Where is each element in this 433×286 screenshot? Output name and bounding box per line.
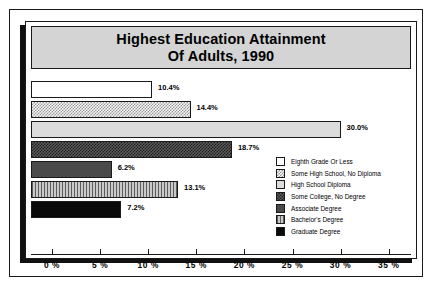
x-axis: [31, 254, 411, 259]
x-axis-tick: [148, 249, 149, 254]
x-axis-tick: [100, 249, 101, 254]
chart-title-band: Highest Education Attainment Of Adults, …: [31, 26, 411, 69]
x-axis-line: [31, 254, 411, 255]
legend-item-label: Bachelor's Degree: [291, 215, 343, 224]
legend-item[interactable]: Associate Degree: [276, 202, 411, 214]
bar-value-label: 18.7%: [238, 143, 259, 152]
x-axis-tick-label: 5 %: [92, 260, 108, 270]
legend-item-label: Some College, No Degree: [291, 192, 366, 201]
legend-item-label: Graduate Degree: [291, 227, 340, 236]
light-gray-square-icon: [276, 180, 285, 189]
legend-item-label: Some High School, No Diploma: [291, 169, 381, 178]
bar-high-school-diploma[interactable]: [31, 121, 341, 138]
x-axis-tick-label: 30 %: [330, 260, 352, 270]
x-axis-tick: [52, 249, 53, 254]
bar-value-label: 30.0%: [347, 123, 368, 132]
bar-value-label: 6.2%: [118, 163, 135, 172]
chart-card: Highest Education Attainment Of Adults, …: [25, 21, 417, 259]
x-axis-tick: [389, 249, 390, 254]
x-axis-tick: [293, 249, 294, 254]
dark-gray-square-icon: [276, 204, 285, 213]
bar-eighth-grade-or-less[interactable]: [31, 81, 152, 98]
x-axis-tick: [244, 249, 245, 254]
bar-some-high-school-no-diploma[interactable]: [31, 101, 191, 118]
chart-page: Highest Education Attainment Of Adults, …: [0, 0, 433, 286]
legend-item[interactable]: Graduate Degree: [276, 226, 411, 238]
x-axis-tick-label: 0 %: [44, 260, 60, 270]
legend-item[interactable]: Eighth Grade Or Less: [276, 156, 411, 168]
light-checker-square-icon: [276, 169, 285, 178]
legend-item-label: Eighth Grade Or Less: [291, 157, 353, 166]
x-axis-tick-label: 35 %: [378, 260, 400, 270]
chart-title-line-1: Highest Education Attainment: [116, 31, 325, 48]
plot-area: 10.4%14.4%30.0%18.7%6.2%13.1%7.2% Eighth…: [31, 74, 411, 254]
x-axis-tick-label: 25 %: [282, 260, 304, 270]
bar-some-college-no-degree[interactable]: [31, 141, 232, 158]
x-axis-tick-labels: 0 %5 %10 %15 %20 %25 %30 %35 %: [31, 260, 411, 274]
legend-item-label: Associate Degree: [291, 204, 341, 213]
x-axis-tick-label: 10 %: [137, 260, 159, 270]
black-square-icon: [276, 227, 285, 236]
legend-item[interactable]: Bachelor's Degree: [276, 214, 411, 226]
chart-legend: Eighth Grade Or LessSome High School, No…: [276, 156, 411, 237]
bar-row: 10.4%: [31, 80, 411, 100]
chart-title-line-2: Of Adults, 1990: [168, 48, 275, 65]
legend-item[interactable]: Some High School, No Diploma: [276, 168, 411, 180]
bar-value-label: 14.4%: [197, 103, 218, 112]
legend-item-label: High School Diploma: [291, 180, 351, 189]
legend-item[interactable]: Some College, No Degree: [276, 191, 411, 203]
dark-checker-square-icon: [276, 192, 285, 201]
bar-value-label: 13.1%: [184, 183, 205, 192]
striped-square-icon: [276, 215, 285, 224]
bar-row: 14.4%: [31, 100, 411, 120]
x-axis-tick: [341, 249, 342, 254]
bar-graduate-degree[interactable]: [31, 201, 121, 218]
bar-row: 30.0%: [31, 120, 411, 140]
legend-item[interactable]: High School Diploma: [276, 179, 411, 191]
bar-associate-degree[interactable]: [31, 161, 112, 178]
bar-value-label: 7.2%: [127, 203, 144, 212]
x-axis-tick-label: 20 %: [234, 260, 256, 270]
x-axis-tick-label: 15 %: [186, 260, 208, 270]
bar-bachelor-s-degree[interactable]: [31, 181, 178, 198]
white-square-icon: [276, 157, 285, 166]
bar-value-label: 10.4%: [158, 83, 179, 92]
x-axis-tick: [196, 249, 197, 254]
